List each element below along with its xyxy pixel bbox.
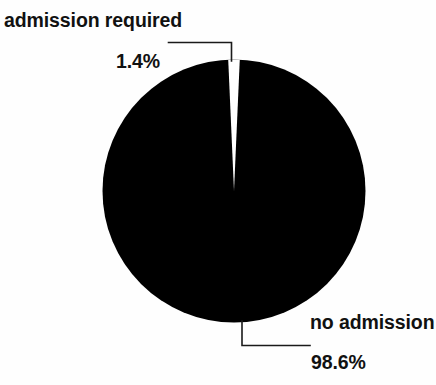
slice-label-no-admission: no admission (310, 311, 434, 334)
leader-line-admission-required (169, 43, 232, 62)
pie-chart-figure: admission required 1.4% no admission 98.… (0, 0, 436, 385)
leader-line-no-admission (242, 321, 310, 346)
slice-label-admission-required: admission required (4, 9, 182, 32)
slice-value-admission-required: 1.4% (116, 50, 160, 73)
slice-value-no-admission: 98.6% (311, 351, 366, 374)
